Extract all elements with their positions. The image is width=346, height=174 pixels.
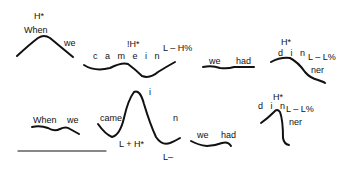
contour-came-in-top (84, 62, 175, 77)
contour-when-we-bottom (32, 126, 79, 134)
word-label: we (197, 131, 209, 140)
word-label: d i n (278, 49, 308, 58)
phrase-accent-label: L– (163, 153, 173, 162)
tone-label: H* (281, 38, 291, 47)
word-label: had (221, 131, 236, 140)
contour-we-had-top (203, 66, 254, 68)
word-label: we (64, 39, 76, 48)
word-label: i (149, 88, 151, 97)
word-label: ner (311, 66, 324, 75)
word-label: we (209, 57, 221, 66)
contour-we-had-bottom (191, 141, 231, 146)
word-label: When (24, 26, 48, 35)
boundary-tone-label: L – L% (308, 53, 336, 62)
word-label: When (33, 116, 57, 125)
tone-label: !H* (127, 40, 140, 49)
word-label: we (67, 116, 79, 125)
pitch-contours (0, 0, 346, 174)
word-label: d i n (258, 102, 288, 111)
boundary-tone-label: L – H% (163, 44, 192, 53)
word-label: c a m e i n (93, 52, 162, 61)
contour-dinner-bottom (261, 110, 289, 145)
word-label: n (173, 114, 178, 123)
word-label: had (236, 57, 251, 66)
word-label: came (100, 114, 122, 123)
tone-label: H* (34, 12, 44, 21)
boundary-tone-label: L – L% (286, 105, 314, 114)
tone-label: L + H* (119, 140, 144, 149)
word-label: ner (289, 118, 302, 127)
